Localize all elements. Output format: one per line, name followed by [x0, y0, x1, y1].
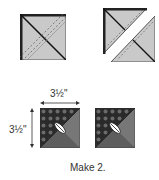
height-label: 3½" — [9, 124, 26, 135]
width-arrow — [40, 100, 80, 106]
half-square-triangle-unit — [40, 108, 80, 148]
width-label: 3½" — [50, 88, 67, 99]
half-square-triangle-unit — [95, 108, 135, 148]
sewn-square-diagram — [20, 14, 66, 60]
make-count-caption: Make 2. — [70, 162, 106, 173]
cut-square-diagram — [103, 8, 155, 62]
height-arrow — [29, 108, 35, 148]
